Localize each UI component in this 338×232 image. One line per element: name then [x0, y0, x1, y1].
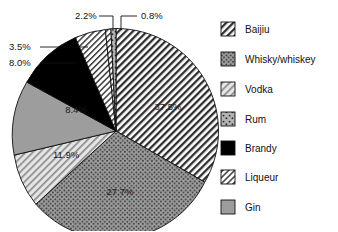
- legend-item-gin[interactable]: Gin: [221, 200, 261, 214]
- legend-swatch-gin: [221, 200, 235, 214]
- legend-swatch-liqueur: [221, 170, 235, 184]
- callout-label-3-5: 3.5%: [9, 41, 31, 52]
- legend-swatch-whisky: [221, 52, 235, 66]
- legend-label-gin: Gin: [245, 202, 261, 213]
- legend-swatch-rum: [221, 112, 235, 126]
- legend-swatch-brandy: [221, 141, 235, 155]
- pie-chart-figure: 2.2% 0.8% 3.5% 8.0% 37.5% 27.7% 11.9% 8.…: [0, 0, 338, 231]
- pie-slices: [12, 29, 218, 232]
- legend-label-vodka: Vodka: [245, 84, 273, 95]
- legend-item-liqueur[interactable]: Liqueur: [221, 170, 279, 184]
- legend: Baijiu Whisky/whiskey Vodka Rum Brandy L…: [221, 22, 316, 214]
- leader-line-0-8: [121, 16, 137, 30]
- legend-item-whisky[interactable]: Whisky/whiskey: [221, 52, 316, 66]
- slice-label-gin: 8.4%: [65, 104, 87, 115]
- legend-swatch-vodka: [221, 82, 235, 96]
- callout-label-8-0: 8.0%: [9, 57, 31, 68]
- legend-label-brandy: Brandy: [245, 143, 277, 154]
- legend-swatch-baijiu: [221, 22, 235, 36]
- legend-item-baijiu[interactable]: Baijiu: [221, 22, 269, 36]
- legend-item-brandy[interactable]: Brandy: [221, 141, 277, 155]
- legend-label-baijiu: Baijiu: [245, 24, 269, 35]
- legend-item-rum[interactable]: Rum: [221, 112, 266, 126]
- legend-label-whisky: Whisky/whiskey: [245, 54, 316, 65]
- legend-label-rum: Rum: [245, 114, 266, 125]
- slice-label-baijiu: 37.5%: [155, 101, 182, 112]
- callout-label-0-8: 0.8%: [141, 10, 163, 21]
- callout-label-2-2: 2.2%: [75, 10, 97, 21]
- slice-label-whisky: 27.7%: [107, 186, 134, 197]
- legend-item-vodka[interactable]: Vodka: [221, 82, 273, 96]
- slice-label-vodka: 11.9%: [53, 149, 80, 160]
- legend-label-liqueur: Liqueur: [245, 172, 279, 183]
- chart-canvas: 2.2% 0.8% 3.5% 8.0% 37.5% 27.7% 11.9% 8.…: [0, 0, 338, 231]
